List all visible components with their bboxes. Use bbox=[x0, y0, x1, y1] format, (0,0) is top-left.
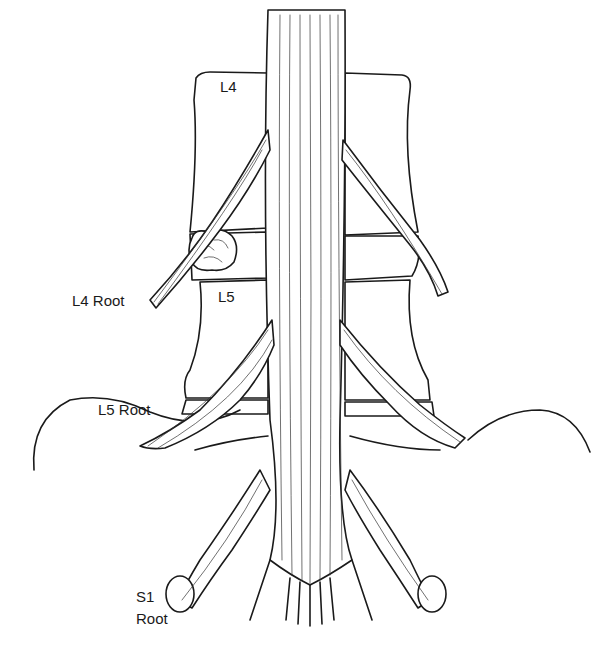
label-s1-root-line1: S1 bbox=[136, 588, 154, 605]
s1-ganglion-right bbox=[418, 576, 446, 612]
spine-drawing bbox=[0, 0, 603, 650]
label-l5-root: L5 Root bbox=[98, 401, 151, 418]
s1-ganglion-left bbox=[166, 576, 194, 612]
label-s1-root-line2: Root bbox=[136, 610, 168, 627]
label-l4: L4 bbox=[220, 78, 237, 95]
sacrum-right-contour bbox=[468, 410, 590, 452]
spine-diagram: L4 L5 L4 Root L5 Root S1 Root bbox=[0, 0, 603, 650]
label-l5: L5 bbox=[218, 288, 235, 305]
label-l4-root: L4 Root bbox=[72, 292, 125, 309]
